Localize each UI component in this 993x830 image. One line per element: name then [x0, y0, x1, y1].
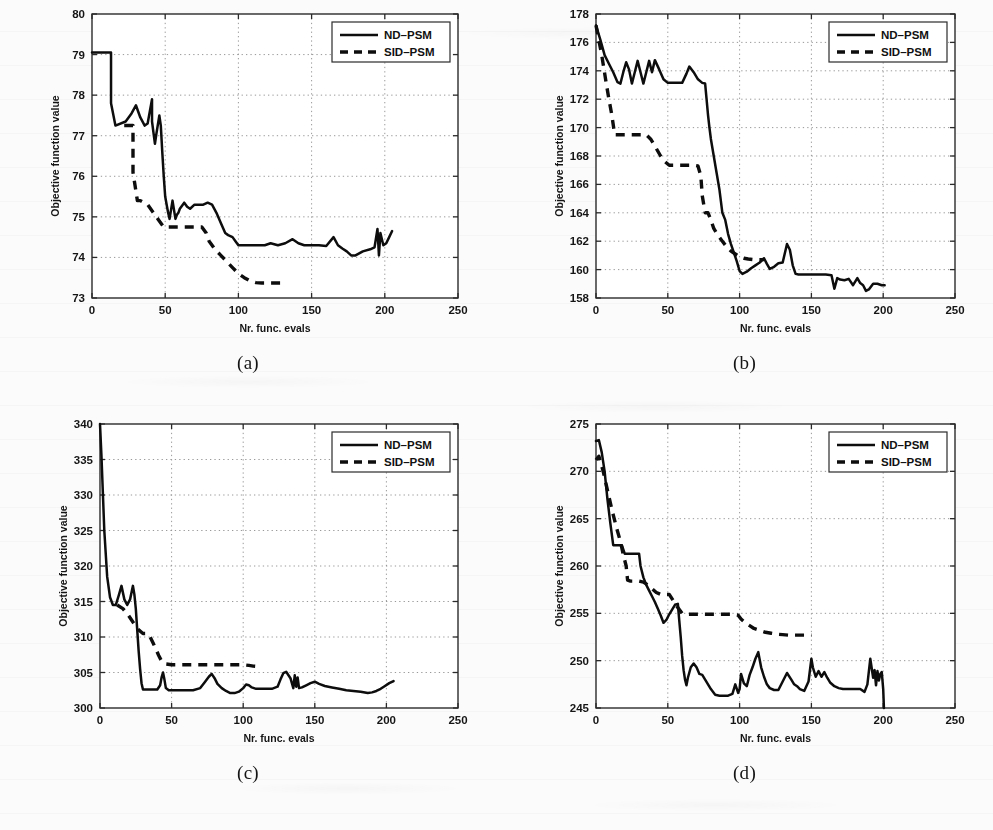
svg-text:80: 80: [72, 8, 85, 20]
figure-panel-grid: 0501001502002507374757677787980Nr. func.…: [0, 0, 993, 830]
svg-text:270: 270: [570, 465, 589, 477]
svg-text:50: 50: [661, 714, 674, 726]
svg-text:Objective function value: Objective function value: [49, 95, 61, 217]
svg-text:50: 50: [661, 304, 674, 316]
svg-text:250: 250: [448, 714, 467, 726]
svg-text:100: 100: [229, 304, 248, 316]
svg-text:ND–PSM: ND–PSM: [384, 29, 432, 41]
svg-text:0: 0: [97, 714, 103, 726]
svg-text:73: 73: [72, 292, 85, 304]
chart-d-canvas: 050100150200250245250255260265270275Nr. …: [496, 410, 993, 770]
svg-text:325: 325: [74, 525, 94, 537]
svg-text:255: 255: [570, 607, 590, 619]
svg-text:Nr. func. evals: Nr. func. evals: [740, 732, 811, 744]
svg-text:0: 0: [593, 304, 599, 316]
svg-text:79: 79: [72, 49, 85, 61]
svg-text:Objective function value: Objective function value: [553, 95, 565, 217]
svg-text:Nr. func. evals: Nr. func. evals: [740, 322, 811, 334]
svg-text:150: 150: [305, 714, 324, 726]
svg-text:Nr. func. evals: Nr. func. evals: [239, 322, 310, 334]
chart-a-canvas: 0501001502002507374757677787980Nr. func.…: [0, 0, 496, 360]
svg-text:ND–PSM: ND–PSM: [881, 29, 929, 41]
svg-text:75: 75: [72, 211, 85, 223]
svg-text:260: 260: [570, 560, 589, 572]
svg-text:150: 150: [802, 714, 821, 726]
caption-d: (d): [496, 762, 993, 784]
svg-text:150: 150: [802, 304, 821, 316]
chart-c-canvas: 0501001502002503003053103153203253303353…: [0, 410, 496, 770]
svg-text:166: 166: [570, 178, 589, 190]
svg-text:77: 77: [72, 130, 85, 142]
svg-text:176: 176: [570, 36, 589, 48]
svg-text:Objective function value: Objective function value: [553, 505, 565, 627]
svg-text:50: 50: [159, 304, 172, 316]
caption-b: (b): [496, 352, 993, 374]
caption-c: (c): [0, 762, 496, 784]
svg-text:50: 50: [165, 714, 178, 726]
chart-panel-d: 050100150200250245250255260265270275Nr. …: [496, 400, 993, 810]
svg-text:200: 200: [874, 304, 893, 316]
chart-panel-b: 0501001502002501581601621641661681701721…: [496, 0, 993, 400]
svg-text:Objective function value: Objective function value: [57, 505, 69, 627]
svg-text:275: 275: [570, 418, 590, 430]
svg-text:74: 74: [72, 251, 85, 263]
svg-text:300: 300: [74, 702, 93, 714]
svg-text:245: 245: [570, 702, 590, 714]
svg-text:76: 76: [72, 170, 85, 182]
svg-text:162: 162: [570, 235, 589, 247]
svg-text:250: 250: [570, 655, 589, 667]
svg-text:SID–PSM: SID–PSM: [384, 46, 435, 58]
chart-b-canvas: 0501001502002501581601621641661681701721…: [496, 0, 993, 360]
svg-text:172: 172: [570, 93, 589, 105]
svg-text:SID–PSM: SID–PSM: [881, 46, 932, 58]
svg-text:78: 78: [72, 89, 85, 101]
svg-text:310: 310: [74, 631, 93, 643]
svg-text:SID–PSM: SID–PSM: [384, 456, 435, 468]
svg-text:ND–PSM: ND–PSM: [881, 439, 929, 451]
svg-text:335: 335: [74, 454, 94, 466]
svg-text:160: 160: [570, 264, 589, 276]
svg-text:168: 168: [570, 150, 590, 162]
svg-text:Nr. func. evals: Nr. func. evals: [243, 732, 314, 744]
svg-text:265: 265: [570, 513, 590, 525]
svg-text:0: 0: [593, 714, 599, 726]
svg-text:305: 305: [74, 667, 94, 679]
svg-text:200: 200: [377, 714, 396, 726]
svg-text:0: 0: [89, 304, 95, 316]
svg-text:250: 250: [448, 304, 467, 316]
svg-text:150: 150: [302, 304, 321, 316]
chart-panel-c: 0501001502002503003053103153203253303353…: [0, 400, 496, 810]
svg-text:100: 100: [730, 304, 749, 316]
svg-text:170: 170: [570, 122, 589, 134]
svg-text:340: 340: [74, 418, 93, 430]
caption-a: (a): [0, 352, 496, 374]
svg-text:164: 164: [570, 207, 590, 219]
svg-text:200: 200: [874, 714, 893, 726]
svg-text:174: 174: [570, 65, 590, 77]
svg-text:320: 320: [74, 560, 93, 572]
svg-text:250: 250: [945, 714, 964, 726]
svg-text:SID–PSM: SID–PSM: [881, 456, 932, 468]
svg-text:ND–PSM: ND–PSM: [384, 439, 432, 451]
svg-text:330: 330: [74, 489, 93, 501]
svg-text:200: 200: [375, 304, 394, 316]
svg-text:100: 100: [730, 714, 749, 726]
svg-text:158: 158: [570, 292, 590, 304]
svg-text:250: 250: [945, 304, 964, 316]
svg-text:100: 100: [234, 714, 253, 726]
svg-text:178: 178: [570, 8, 590, 20]
chart-panel-a: 0501001502002507374757677787980Nr. func.…: [0, 0, 496, 400]
svg-text:315: 315: [74, 596, 94, 608]
